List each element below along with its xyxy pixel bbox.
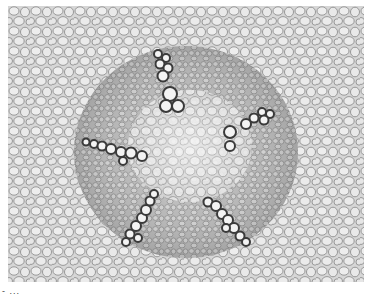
root-cross-section xyxy=(8,6,364,282)
micrograph-image xyxy=(8,6,364,282)
caption-fragment: - ... xyxy=(2,286,20,296)
